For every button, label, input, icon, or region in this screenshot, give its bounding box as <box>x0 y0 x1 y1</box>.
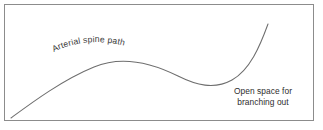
note-line-1: Open space for <box>220 86 306 97</box>
note-line-2: branching out <box>220 97 306 108</box>
open-space-note: Open space for branching out <box>220 86 306 107</box>
diagram-surface <box>0 0 323 130</box>
diagram-canvas: Arterial spine path Open space for branc… <box>0 0 323 130</box>
